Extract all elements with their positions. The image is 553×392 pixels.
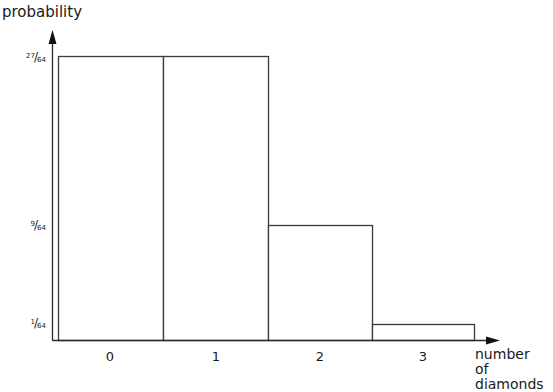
bar-0 bbox=[59, 57, 164, 341]
x-axis-arrow-icon bbox=[486, 337, 500, 345]
bars bbox=[59, 57, 475, 341]
bar-1 bbox=[164, 57, 269, 341]
bar-3 bbox=[373, 325, 475, 341]
y-axis-arrow-icon bbox=[49, 30, 57, 44]
bar-2 bbox=[269, 226, 373, 341]
